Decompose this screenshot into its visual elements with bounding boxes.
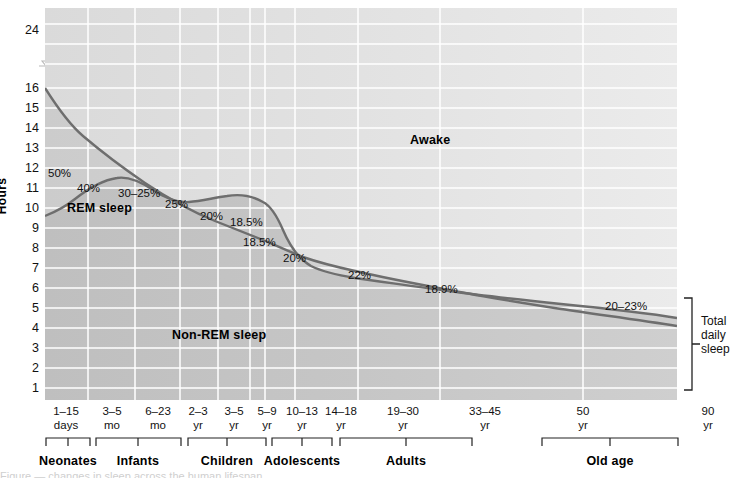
x-axis-labels: 1–15 days 3–5 mo 6–23 mo 2–3 yr 3–5 yr 5…: [0, 404, 740, 438]
x-tick-line1: 33–45: [469, 405, 501, 417]
x-tick-line1: 3–5: [224, 405, 243, 417]
y-tick-6: 6: [32, 282, 39, 294]
x-tick-line1: 50: [577, 405, 590, 417]
annotation-rem-pct: 18.5%: [243, 236, 276, 248]
group-label-neonates: Neonates: [39, 454, 97, 468]
x-tick-line2: yr: [469, 418, 501, 432]
y-tick-24: 24: [25, 24, 39, 36]
x-tick-6: 10–13 yr: [286, 404, 318, 432]
group-label-adolescents: Adolescents: [264, 454, 341, 468]
y-axis-title: Hours: [0, 178, 9, 215]
x-tick-line2: yr: [257, 418, 276, 432]
x-tick-9: 33–45 yr: [469, 404, 501, 432]
x-tick-line2: yr: [702, 418, 715, 432]
x-tick-7: 14–18 yr: [325, 404, 357, 432]
awake-label: Awake: [410, 133, 450, 147]
y-tick-8: 8: [32, 242, 39, 254]
nonrem-label: Non-REM sleep: [172, 328, 266, 342]
group-label-children: Children: [201, 454, 253, 468]
x-tick-line1: 14–18: [325, 405, 357, 417]
x-tick-0: 1–15 days: [53, 404, 79, 432]
annotation-rem-pct: 40%: [77, 182, 100, 194]
y-tick-7: 7: [32, 262, 39, 274]
x-tick-line2: yr: [387, 418, 419, 432]
y-tick-16: 16: [25, 82, 39, 94]
x-tick-line2: days: [53, 418, 79, 432]
sleep-area-chart: [45, 8, 677, 400]
y-tick-4: 4: [32, 322, 39, 334]
x-tick-line1: 6–23: [145, 405, 171, 417]
total-line-3: sleep: [701, 342, 730, 356]
y-tick-1: 1: [32, 382, 39, 394]
x-tick-line1: 5–9: [257, 405, 276, 417]
y-tick-14: 14: [25, 122, 39, 134]
x-tick-line1: 1–15: [53, 405, 79, 417]
total-line-2: daily: [701, 328, 730, 342]
x-tick-line2: mo: [102, 418, 121, 432]
annotation-rem-pct: 18.5%: [230, 216, 263, 228]
y-tick-9: 9: [32, 222, 39, 234]
x-tick-line2: yr: [286, 418, 318, 432]
rem-label: REM sleep: [67, 201, 132, 215]
annotation-rem-pct: 20%: [200, 210, 223, 222]
group-label-adults: Adults: [386, 454, 426, 468]
x-tick-line1: 19–30: [387, 405, 419, 417]
y-tick-11: 11: [26, 182, 39, 194]
x-tick-line1: 3–5: [102, 405, 121, 417]
plot-area: Awake REM sleep Non-REM sleep 50% 40% 30…: [45, 8, 677, 400]
x-tick-line2: yr: [577, 418, 590, 432]
y-tick-3: 3: [32, 342, 39, 354]
x-tick-11: 90 yr: [702, 404, 715, 432]
y-tick-12: 12: [25, 162, 39, 174]
x-tick-3: 2–3 yr: [188, 404, 207, 432]
figure-root: Hours 24 16 15 14 13 12 11 10 9 8 7 6 5 …: [0, 0, 740, 478]
x-tick-line2: yr: [188, 418, 207, 432]
annotation-rem-pct: 25%: [165, 198, 188, 210]
x-tick-4: 3–5 yr: [224, 404, 243, 432]
y-tick-13: 13: [25, 142, 39, 154]
annotation-rem-pct: 30–25%: [118, 187, 160, 199]
x-tick-1: 3–5 mo: [102, 404, 121, 432]
y-tick-2: 2: [32, 362, 39, 374]
group-bracket-lines: [0, 436, 740, 454]
total-daily-sleep-label: Total daily sleep: [701, 314, 730, 356]
group-label-oldage: Old age: [586, 454, 633, 468]
total-line-1: Total: [701, 314, 730, 328]
y-tick-15: 15: [25, 102, 39, 114]
annotation-rem-pct: 50%: [48, 167, 71, 179]
total-daily-sleep-bracket: Total daily sleep: [682, 296, 740, 392]
group-label-infants: Infants: [117, 454, 159, 468]
x-tick-line2: yr: [224, 418, 243, 432]
x-tick-2: 6–23 mo: [145, 404, 171, 432]
x-tick-line2: mo: [145, 418, 171, 432]
x-tick-10: 50 yr: [577, 404, 590, 432]
annotation-rem-pct: 18.9%: [425, 283, 458, 295]
x-tick-5: 5–9 yr: [257, 404, 276, 432]
annotation-rem-pct: 22%: [348, 269, 371, 281]
annotation-rem-pct: 20%: [283, 252, 306, 264]
x-tick-line1: 2–3: [188, 405, 207, 417]
y-tick-10: 10: [25, 202, 39, 214]
x-tick-line1: 10–13: [286, 405, 318, 417]
figure-caption: Figure — changes in sleep across the hum…: [0, 470, 740, 478]
y-tick-5: 5: [32, 302, 39, 314]
x-tick-line1: 90: [702, 405, 715, 417]
annotation-rem-pct: 20–23%: [605, 300, 647, 312]
y-axis: Hours 24 16 15 14 13 12 11 10 9 8 7 6 5 …: [0, 0, 45, 400]
x-tick-8: 19–30 yr: [387, 404, 419, 432]
x-tick-line2: yr: [325, 418, 357, 432]
